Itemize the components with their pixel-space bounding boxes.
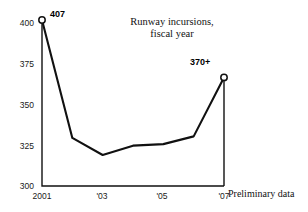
runway-incursions-chart: 400 375 350 325 300 2001 '03 '05 '07 407… xyxy=(0,0,308,212)
chart-footnote: Preliminary data xyxy=(228,188,294,199)
x-tick-label-03: '03 xyxy=(88,191,116,201)
x-tick-label-2001: 2001 xyxy=(26,191,58,201)
axis-lines xyxy=(42,20,224,186)
chart-title: Runway incursions, fiscal year xyxy=(112,16,232,40)
last-point-label: 370+ xyxy=(190,57,210,67)
chart-title-line-1: Runway incursions, xyxy=(130,16,213,27)
x-tick-label-05: '05 xyxy=(148,191,176,201)
data-line-runway-incursions xyxy=(42,20,224,155)
marker-2007 xyxy=(221,74,227,80)
first-point-label: 407 xyxy=(50,9,65,19)
y-tick-label-400: 400 xyxy=(8,18,34,28)
y-tick-label-350: 350 xyxy=(8,100,34,110)
y-tick-label-325: 325 xyxy=(8,141,34,151)
y-tick-label-300: 300 xyxy=(8,181,34,191)
chart-title-line-2: fiscal year xyxy=(112,28,232,40)
y-tick-label-375: 375 xyxy=(8,59,34,69)
marker-2001 xyxy=(39,17,45,23)
